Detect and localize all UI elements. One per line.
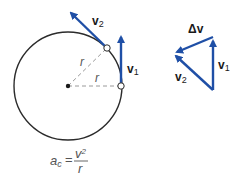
- v2-label: v2: [92, 14, 104, 29]
- v1-label: v1: [127, 62, 139, 77]
- center-point: [66, 84, 70, 88]
- centripetal-formula: ac = v2 r: [50, 146, 88, 176]
- formula-lhs: ac: [50, 153, 62, 169]
- centripetal-acceleration-diagram: r r v1 v2 Δv v1 v2 ac = v2 r: [0, 0, 239, 177]
- delta-v-label: Δv: [188, 22, 204, 36]
- formula-equals: =: [65, 152, 73, 167]
- triangle-v2-label: v2: [175, 70, 187, 85]
- radius-label-diagonal: r: [80, 55, 85, 69]
- point-2-marker: [104, 45, 110, 51]
- radius-line-diagonal: [68, 48, 107, 86]
- formula-numerator: v2: [75, 146, 87, 161]
- point-1-marker: [118, 83, 124, 89]
- triangle-v1-label: v1: [218, 58, 230, 73]
- triangle-delta-v-vector: [177, 37, 213, 52]
- formula-denominator: r: [78, 161, 83, 176]
- radius-label-horizontal: r: [95, 71, 100, 85]
